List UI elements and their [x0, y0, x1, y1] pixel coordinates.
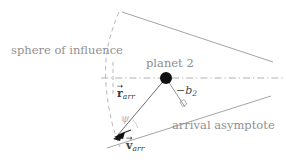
psi-angle-arc	[133, 120, 138, 128]
incoming-asymptote-line	[122, 12, 273, 62]
v-arr-vector-label: varr	[126, 140, 145, 153]
r-subscript: arr	[123, 92, 135, 101]
figure-canvas: sphere of influence planet 2 arrival asy…	[0, 0, 286, 163]
sphere-of-influence-label: sphere of influence	[11, 45, 123, 57]
planet-2-label: planet 2	[146, 58, 194, 70]
r-arr-vector-label: rarr	[117, 88, 135, 101]
psi-angle-label: ψ	[121, 113, 129, 124]
r-vector-group: r	[117, 88, 123, 99]
v-vector-group: v	[126, 140, 132, 151]
orbit-geometry-diagram	[0, 0, 286, 163]
planet-2-dot	[160, 72, 172, 84]
arrival-asymptote-label: arrival asymptote	[172, 120, 275, 132]
impact-parameter-label: −b2	[176, 85, 197, 98]
v-symbol: v	[126, 139, 132, 152]
r-arr-vector-line	[117, 78, 166, 136]
minus-sign: −	[176, 84, 185, 97]
v-subscript: arr	[132, 144, 144, 153]
b-subscript: 2	[192, 89, 197, 98]
r-symbol: r	[117, 87, 123, 100]
